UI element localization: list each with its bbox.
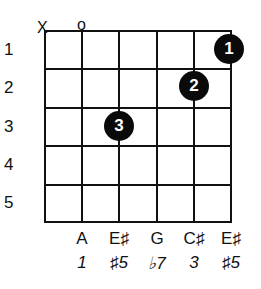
nut-line bbox=[44, 30, 232, 32]
fret-line-5 bbox=[44, 221, 232, 223]
finger-dot-3: 3 bbox=[104, 111, 134, 141]
muted-string-marker: X bbox=[37, 20, 48, 36]
fret-line-4 bbox=[44, 184, 232, 186]
fret-number: 3 bbox=[4, 117, 24, 137]
fret-line-1 bbox=[44, 68, 232, 70]
interval-label: ♯5 bbox=[104, 253, 134, 273]
fret-number: 5 bbox=[4, 193, 24, 213]
note-label: E♯ bbox=[104, 229, 134, 249]
fret-number: 2 bbox=[4, 78, 24, 98]
fret-line-3 bbox=[44, 145, 232, 147]
string-2 bbox=[193, 30, 195, 222]
interval-label: ♭7 bbox=[142, 253, 172, 274]
fret-number: 4 bbox=[4, 155, 24, 175]
fret-number: 1 bbox=[4, 40, 24, 60]
note-label: E♯ bbox=[216, 229, 246, 249]
note-label: C♯ bbox=[179, 229, 209, 249]
note-label: G bbox=[142, 229, 172, 249]
fret-line-2 bbox=[44, 107, 232, 109]
finger-dot-2: 2 bbox=[179, 71, 209, 101]
interval-label: 3 bbox=[179, 253, 209, 273]
interval-label: 1 bbox=[67, 253, 97, 273]
interval-label: ♯5 bbox=[216, 253, 246, 273]
open-string-marker: o bbox=[77, 17, 86, 33]
string-5 bbox=[81, 30, 83, 222]
string-6 bbox=[44, 30, 46, 222]
fretboard-grid bbox=[44, 30, 230, 222]
note-label: A bbox=[67, 229, 97, 249]
finger-dot-1: 1 bbox=[214, 34, 244, 64]
string-3 bbox=[156, 30, 158, 222]
